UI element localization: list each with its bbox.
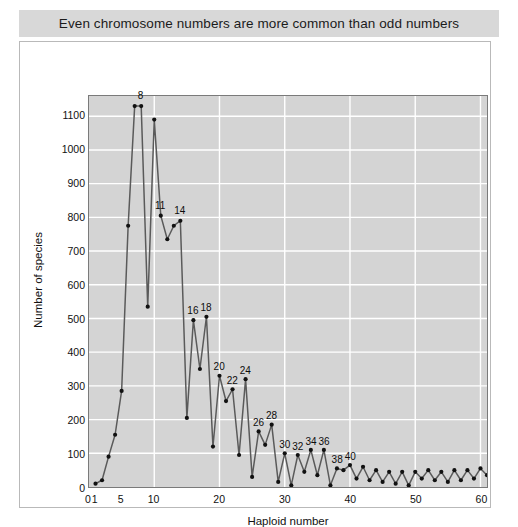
y-tick-label: 100 bbox=[67, 448, 85, 460]
data-point bbox=[211, 444, 215, 448]
data-point bbox=[139, 104, 143, 108]
data-point bbox=[159, 214, 163, 218]
x-tick-label: 0 bbox=[85, 493, 91, 505]
data-point bbox=[433, 478, 437, 482]
page-edge-bleed bbox=[462, 432, 488, 510]
x-tick-label: 40 bbox=[344, 493, 356, 505]
data-point bbox=[420, 476, 424, 480]
chart-title-banner: Even chromosome numbers are more common … bbox=[19, 10, 499, 37]
data-point bbox=[106, 455, 110, 459]
data-point bbox=[204, 315, 208, 319]
plot-area bbox=[88, 95, 488, 488]
data-point bbox=[237, 453, 241, 457]
y-tick-label: 300 bbox=[67, 380, 85, 392]
data-point bbox=[217, 374, 221, 378]
data-point bbox=[126, 224, 130, 228]
data-point bbox=[381, 480, 385, 484]
data-point bbox=[191, 318, 195, 322]
data-point bbox=[133, 104, 137, 108]
y-tick-label: 900 bbox=[67, 177, 85, 189]
x-tick-label: 5 bbox=[118, 493, 124, 505]
data-point bbox=[315, 473, 319, 477]
data-point bbox=[452, 468, 456, 472]
data-point bbox=[283, 451, 287, 455]
data-point bbox=[374, 468, 378, 472]
data-point bbox=[335, 466, 339, 470]
y-axis-title: Number of species bbox=[32, 220, 44, 340]
y-tick-label: 1100 bbox=[62, 109, 85, 121]
data-point bbox=[328, 483, 332, 487]
data-point bbox=[185, 416, 189, 420]
data-point bbox=[361, 465, 365, 469]
data-point bbox=[270, 423, 274, 427]
x-tick-label: 50 bbox=[410, 493, 422, 505]
data-point bbox=[250, 475, 254, 479]
data-point bbox=[276, 480, 280, 484]
data-point bbox=[296, 453, 300, 457]
y-tick-label: 700 bbox=[67, 245, 85, 257]
gridlines-vertical bbox=[154, 96, 480, 487]
y-tick-label: 1000 bbox=[62, 143, 85, 155]
data-point bbox=[257, 429, 261, 433]
x-tick-label: 1 bbox=[92, 493, 98, 505]
figure-frame: 010020030040050060070080090010001100 Num… bbox=[19, 41, 491, 508]
x-tick-label: 10 bbox=[148, 493, 160, 505]
data-point bbox=[341, 468, 345, 472]
data-point bbox=[394, 482, 398, 486]
data-point bbox=[165, 237, 169, 241]
data-point bbox=[224, 399, 228, 403]
y-axis-ticks: 010020030040050060070080090010001100 bbox=[42, 95, 85, 488]
data-point bbox=[348, 463, 352, 467]
data-point bbox=[198, 367, 202, 371]
data-point bbox=[413, 470, 417, 474]
y-tick-label: 500 bbox=[67, 313, 85, 325]
x-axis-ticks: 015102030405060 bbox=[88, 493, 488, 509]
y-tick-label: 600 bbox=[67, 279, 85, 291]
x-tick-label: 30 bbox=[279, 493, 291, 505]
data-point bbox=[100, 478, 104, 482]
data-point bbox=[178, 219, 182, 223]
data-point bbox=[113, 433, 117, 437]
data-point bbox=[244, 377, 248, 381]
y-tick-label: 200 bbox=[67, 414, 85, 426]
data-point bbox=[322, 448, 326, 452]
data-point bbox=[400, 470, 404, 474]
chart-title: Even chromosome numbers are more common … bbox=[59, 16, 459, 31]
data-point bbox=[230, 387, 234, 391]
data-point bbox=[446, 480, 450, 484]
data-point bbox=[354, 476, 358, 480]
data-point bbox=[120, 389, 124, 393]
data-point bbox=[93, 482, 97, 486]
data-point bbox=[309, 448, 313, 452]
data-point bbox=[302, 470, 306, 474]
chart-plot-svg bbox=[89, 96, 487, 487]
data-point bbox=[146, 305, 150, 309]
data-point bbox=[387, 470, 391, 474]
y-tick-label: 800 bbox=[67, 211, 85, 223]
data-point bbox=[152, 118, 156, 122]
data-point bbox=[263, 443, 267, 447]
data-point bbox=[426, 468, 430, 472]
data-point bbox=[439, 470, 443, 474]
data-point bbox=[172, 224, 176, 228]
data-point bbox=[367, 478, 371, 482]
y-tick-label: 400 bbox=[67, 346, 85, 358]
x-tick-label: 20 bbox=[213, 493, 225, 505]
data-point bbox=[289, 483, 293, 487]
x-axis-title: Haploid number bbox=[88, 515, 488, 527]
